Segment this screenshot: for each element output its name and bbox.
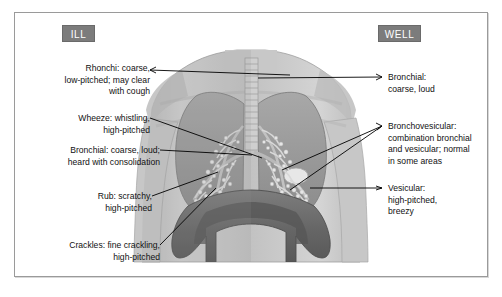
label-bronchovesicular: Bronchovesicular: combination bronchial … [388,121,496,167]
badge-well: WELL [378,25,421,42]
badge-ill: ILL [62,25,95,42]
label-wheeze: Wheeze: whistling, high-pitched [30,113,150,136]
label-bronchial-ill: Bronchial: coarse, loud; heard with cons… [16,145,160,168]
label-rub: Rub: scratchy, high-pitched [40,191,152,214]
label-rhonchi: Rhonchi: coarse, low-pitched; may clear … [24,63,150,98]
label-vesicular: Vesicular: high-pitched, breezy [388,183,496,218]
label-crackles: Crackles: fine crackling, high-pitched [14,240,160,263]
label-bronchial-well: Bronchial: coarse, loud [388,72,496,95]
breath-sounds-figure: ILL WELL Rhonchi: coarse, low-pitched; m… [0,0,502,297]
